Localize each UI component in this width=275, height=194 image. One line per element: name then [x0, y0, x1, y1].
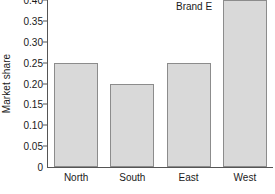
y-axis-tick-labels: 00.050.100.150.200.250.300.350.40 — [13, 0, 43, 194]
bar-group — [167, 0, 211, 167]
bar-chart: Market share 00.050.100.150.200.250.300.… — [0, 0, 275, 194]
y-axis-tick-label: 0 — [13, 162, 43, 173]
x-axis-tick-labels: NorthSouthEastWest — [48, 169, 273, 194]
plot-area — [48, 0, 273, 167]
bar-north — [54, 63, 98, 167]
y-axis-tick-label: 0.40 — [13, 0, 43, 6]
y-axis-tick-label: 0.20 — [13, 78, 43, 89]
x-axis-tick-label: West — [217, 172, 273, 183]
x-axis-line — [47, 167, 273, 168]
bar-group — [223, 0, 267, 167]
bar-east — [167, 63, 211, 167]
y-axis-tick-label: 0.30 — [13, 36, 43, 47]
y-axis-title-text: Market share — [2, 54, 13, 114]
y-axis-tick-label: 0.15 — [13, 99, 43, 110]
bar-group — [110, 0, 154, 167]
x-axis-tick-label: North — [48, 172, 104, 183]
bar-group — [54, 0, 98, 167]
y-axis-tick-label: 0.05 — [13, 141, 43, 152]
annotation-brand-e: Brand E — [176, 1, 212, 12]
bar-west — [223, 0, 267, 167]
y-axis-tick-label: 0.35 — [13, 15, 43, 26]
y-axis-tick-label: 0.25 — [13, 57, 43, 68]
y-axis-tick-label: 0.10 — [13, 120, 43, 131]
y-axis-title: Market share — [0, 0, 14, 167]
x-axis-tick-label: East — [161, 172, 217, 183]
bar-south — [110, 84, 154, 168]
x-axis-tick-label: South — [104, 172, 160, 183]
